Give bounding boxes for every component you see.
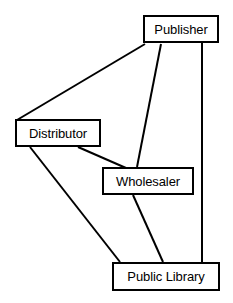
node-publisher-label: Publisher: [154, 23, 207, 36]
node-wholesaler[interactable]: Wholesaler: [102, 167, 194, 195]
node-publisher[interactable]: Publisher: [143, 15, 219, 43]
node-public-library[interactable]: Public Library: [112, 262, 220, 291]
edge-publisher-distributor: [17, 44, 145, 120]
diagram-canvas: Publisher Distributor Wholesaler Public …: [0, 0, 233, 303]
edge-distributor-wholesaler: [78, 147, 126, 168]
edge-distributor-public-library: [30, 147, 120, 262]
node-distributor-label: Distributor: [29, 127, 87, 140]
node-distributor[interactable]: Distributor: [15, 119, 101, 147]
node-public-library-label: Public Library: [127, 270, 204, 283]
node-wholesaler-label: Wholesaler: [116, 175, 180, 188]
edge-layer: [0, 0, 233, 303]
edge-publisher-wholesaler: [137, 44, 161, 167]
edge-wholesaler-public-library: [133, 195, 163, 262]
